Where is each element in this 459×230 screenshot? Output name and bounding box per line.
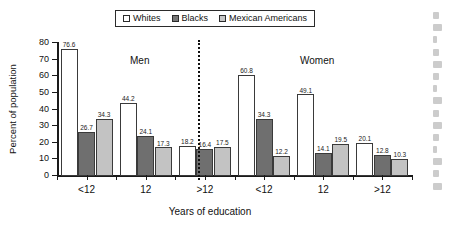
bar-mexican-americans: 10.3 xyxy=(391,159,408,176)
bar-value-label: 44.2 xyxy=(122,95,135,103)
legend-item-blacks: Blacks xyxy=(172,13,209,24)
bar-value-label: 10.3 xyxy=(394,151,407,159)
clipped-text-mark xyxy=(433,183,442,190)
legend-swatch-blacks-icon xyxy=(172,15,179,22)
bar-value-label: 24.1 xyxy=(139,128,152,136)
bar-value-label: 12.8 xyxy=(376,147,389,155)
y-axis-tick xyxy=(52,125,57,126)
clipped-text-mark xyxy=(433,24,442,31)
legend-label-blacks: Blacks xyxy=(182,13,209,24)
x-axis-boundary-tick xyxy=(294,175,295,180)
y-axis-tick-label: 30 xyxy=(39,121,49,130)
bar-value-label: 20.1 xyxy=(359,135,372,143)
legend-label-mexican-americans: Mexican Americans xyxy=(229,13,307,24)
bar-value-label: 26.7 xyxy=(80,124,93,132)
clipped-text-mark xyxy=(433,170,439,177)
x-axis-category-label: 12 xyxy=(140,184,151,196)
bar-mexican-americans: 34.3 xyxy=(96,119,113,176)
men-women-divider xyxy=(198,40,200,180)
bar-cluster: 76.626.734.3 xyxy=(61,42,113,176)
bar-value-label: 16.4 xyxy=(199,141,212,149)
bar-mexican-americans: 17.5 xyxy=(214,147,231,176)
y-axis-tick xyxy=(52,158,57,159)
clipped-text-mark xyxy=(433,36,437,43)
legend-item-whites: Whites xyxy=(123,13,161,24)
bar-mexican-americans: 17.3 xyxy=(155,147,172,176)
x-axis-tick xyxy=(87,175,88,180)
x-axis-boundary-tick xyxy=(412,175,413,180)
legend-label-whites: Whites xyxy=(133,13,161,24)
x-axis-category-label: >12 xyxy=(196,184,213,196)
bar-cluster: 60.834.312.2 xyxy=(238,42,290,176)
bar-cluster: 20.112.810.3 xyxy=(356,42,408,176)
y-axis-tick xyxy=(52,109,57,110)
bar-value-label: 14.1 xyxy=(317,145,330,153)
y-axis-tick xyxy=(52,142,57,143)
bar-value-label: 34.3 xyxy=(98,111,111,119)
y-axis-tick-label: 70 xyxy=(39,54,49,63)
x-axis-boundary-tick xyxy=(116,175,117,180)
bar-whites: 49.1 xyxy=(297,94,314,176)
x-axis-tick xyxy=(382,175,383,180)
bar-value-label: 12.2 xyxy=(275,148,288,156)
clipped-text-mark xyxy=(433,146,437,153)
x-axis-tick xyxy=(146,175,147,180)
legend-swatch-mexican-americans-icon xyxy=(219,15,226,22)
bar-whites: 44.2 xyxy=(120,103,137,176)
bar-value-label: 17.3 xyxy=(157,140,170,148)
bar-whites: 76.6 xyxy=(61,49,78,176)
legend-swatch-whites-icon xyxy=(123,15,130,22)
bar-blacks: 34.3 xyxy=(256,119,273,176)
bar-value-label: 49.1 xyxy=(299,87,312,95)
y-axis-tick xyxy=(52,42,57,43)
bar-blacks: 26.7 xyxy=(78,132,95,176)
clipped-text-mark xyxy=(433,134,439,141)
x-axis-boundary-tick xyxy=(353,175,354,180)
bar-blacks: 24.1 xyxy=(137,136,154,176)
bar-whites: 20.1 xyxy=(356,143,373,176)
bar-value-label: 17.5 xyxy=(216,139,229,147)
clipped-text-mark xyxy=(433,73,439,80)
y-axis-line xyxy=(57,42,59,176)
x-axis-category-label: 12 xyxy=(318,184,329,196)
legend-item-mexican-americans: Mexican Americans xyxy=(219,13,307,24)
y-axis-tick-label: 40 xyxy=(39,104,49,113)
y-axis-tick xyxy=(52,75,57,76)
group-label-men: Men xyxy=(130,55,149,67)
clipped-text-mark xyxy=(433,85,437,92)
bar-value-label: 19.5 xyxy=(334,136,347,144)
x-axis-tick xyxy=(205,175,206,180)
clipped-text-mark xyxy=(433,49,439,56)
x-axis-boundary-tick xyxy=(57,175,58,180)
x-axis-category-label: <12 xyxy=(256,184,273,196)
group-label-women: Women xyxy=(300,55,334,67)
y-axis-tick-label: 60 xyxy=(39,71,49,80)
bar-mexican-americans: 12.2 xyxy=(273,156,290,176)
clipped-text-mark xyxy=(433,12,439,19)
chart-legend: Whites Blacks Mexican Americans xyxy=(115,10,315,27)
y-axis-tick xyxy=(52,59,57,60)
x-axis-category-label: >12 xyxy=(374,184,391,196)
x-axis-boundary-tick xyxy=(235,175,236,180)
bar-blacks: 12.8 xyxy=(374,155,391,176)
x-axis-tick xyxy=(264,175,265,180)
x-axis-boundary-tick xyxy=(175,175,176,180)
bar-whites: 60.8 xyxy=(238,75,255,176)
y-axis-tick xyxy=(52,92,57,93)
clipped-text-mark xyxy=(433,61,442,68)
y-axis-title: Percent of population xyxy=(7,42,19,176)
bar-value-label: 76.6 xyxy=(63,41,76,49)
bar-value-label: 60.8 xyxy=(240,67,253,75)
bar-cluster: 18.216.417.5 xyxy=(179,42,231,176)
x-axis-tick xyxy=(323,175,324,180)
y-axis-tick-label: 80 xyxy=(39,38,49,47)
x-axis-category-label: <12 xyxy=(78,184,95,196)
clipped-text-mark xyxy=(433,122,442,129)
y-axis-tick-label: 50 xyxy=(39,87,49,96)
bar-mexican-americans: 19.5 xyxy=(332,144,349,176)
bar-chart-figure: Whites Blacks Mexican Americans Percent … xyxy=(0,0,459,230)
y-axis-tick-label: 0 xyxy=(44,171,49,180)
x-axis-title: Years of education xyxy=(0,206,420,218)
clipped-text-mark xyxy=(433,158,442,165)
bar-whites: 18.2 xyxy=(179,146,196,176)
